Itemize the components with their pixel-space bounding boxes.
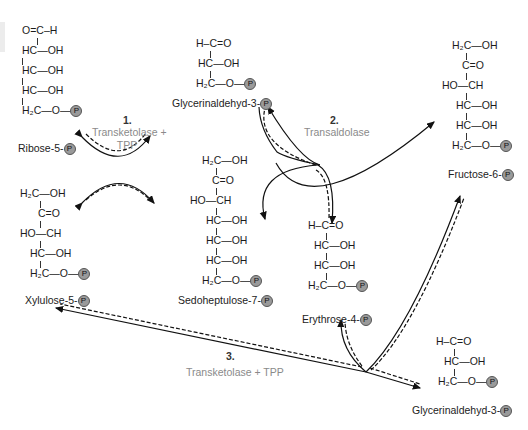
phosphate-icon: P <box>78 295 90 307</box>
label-fructose-6-phosphate: Fructose-6-P <box>448 168 514 181</box>
phosphate-icon: P <box>78 268 90 280</box>
phosphate-icon: P <box>250 275 262 287</box>
molecule-ribose-5-phosphate: O=C–H HC—OH HC—OH HC—OH H₂C—O—P <box>22 25 82 118</box>
phosphate-icon: P <box>360 314 372 326</box>
phosphate-icon: P <box>260 98 272 110</box>
phosphate-icon: P <box>500 405 512 417</box>
molecule-sedoheptulose-7-phosphate: H₂C—OH C=O HO—CH HC—OH HC—OH HC—OH H₂C—O… <box>190 155 262 288</box>
label-glyceraldehyde-3-phosphate-bottom: Glycerinaldehyd-3-P <box>412 404 512 417</box>
arrow-r3-to-e4p <box>341 320 366 372</box>
reaction-1-number: 1. <box>123 114 132 126</box>
arrow-r3-to-gap <box>366 372 420 388</box>
phosphate-icon: P <box>70 105 82 117</box>
phosphate-icon: P <box>64 143 76 155</box>
reaction-1-enzyme: Transketolase + TPP <box>92 126 162 152</box>
reaction-3-number: 3. <box>226 350 235 362</box>
reaction-2-number: 2. <box>330 114 339 126</box>
label-erythrose-4-phosphate: Erythrose-4-P <box>302 313 372 326</box>
reaction-2-enzyme: Transaldolase <box>304 126 370 139</box>
phosphate-icon: P <box>500 140 512 152</box>
phosphate-icon: P <box>502 169 514 181</box>
molecule-glyceraldehyde-3-phosphate-bottom: H–C=O HC—OH H₂C—O—P <box>436 336 498 389</box>
arrow-r2-to-e4p <box>318 165 333 223</box>
molecule-xylulose-5-phosphate: H₂C—OH C=O HO—CH HC—OH H₂C—O—P <box>20 188 90 281</box>
phosphate-icon: P <box>261 295 273 307</box>
label-ribose-5-phosphate: Ribose-5-P <box>18 142 76 155</box>
molecule-erythrose-4-phosphate: H–C=O HC—OH HC—OH H₂C—O—P <box>308 220 368 293</box>
phosphate-icon: P <box>244 78 256 90</box>
molecule-fructose-6-phosphate: H₂C—OH C=O HO—CH HC—OH HC—OH H₂C—O—P <box>442 40 512 153</box>
label-sedoheptulose-7-phosphate: Sedoheptulose-7-P <box>178 294 273 307</box>
phosphate-icon: P <box>486 376 498 388</box>
phosphate-icon: P <box>356 280 368 292</box>
molecule-glyceraldehyde-3-phosphate-top: H–C=O HC—OH H₂C—O—P <box>196 38 256 91</box>
label-xylulose-5-phosphate: Xylulose-5-P <box>25 294 90 307</box>
label-glyceraldehyde-3-phosphate-top: Glycerinaldehyd-3-P <box>172 97 272 110</box>
reaction-3-enzyme: Transketolase + TPP <box>186 366 284 379</box>
